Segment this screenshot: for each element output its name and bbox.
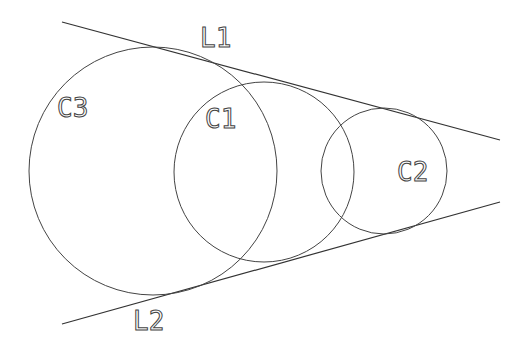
line-l2 [62,202,500,324]
label-c2: C2 [397,157,428,187]
label-l1: L1 [200,23,231,53]
label-c1: C1 [205,104,236,134]
circle-c3 [29,47,277,295]
label-c3: C3 [57,93,88,123]
line-l1 [62,22,500,140]
label-l2: L2 [133,306,164,336]
tangent-circles-diagram: L1 L2 C3 C1 C2 [0,0,528,351]
circle-c1 [174,82,354,262]
